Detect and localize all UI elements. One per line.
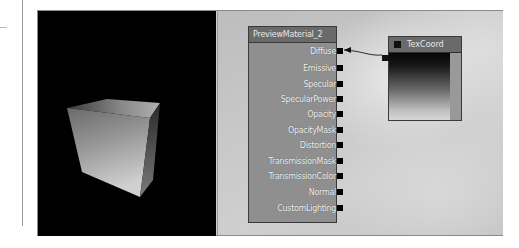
collapse-toggle-icon[interactable] [394,41,401,48]
output-connector-icon[interactable] [382,55,389,61]
connector-icon[interactable] [337,142,343,148]
vertical-divider [22,0,23,226]
connector-icon[interactable] [337,96,343,102]
connector-icon[interactable] [337,48,343,54]
connector-icon[interactable] [337,65,343,71]
material-node[interactable]: PreviewMaterial_2 Diffuse Emissive Specu… [248,26,337,223]
pin-emissive[interactable]: Emissive [303,63,343,73]
material-node-title: PreviewMaterial_2 [249,27,336,43]
cube-preview [38,11,216,236]
pin-specular-power[interactable]: SpecularPower [281,94,343,104]
preview-viewport[interactable] [38,11,216,236]
pin-transmission-mask[interactable]: TransmissionMask [269,156,344,166]
pin-distortion[interactable]: Distortion [300,140,343,150]
pin-transmission-color[interactable]: TransmissionColor [269,171,343,181]
texcoord-node-title: TexCoord [407,40,444,49]
pin-custom-lighting[interactable]: CustomLighting [277,203,343,213]
connector-icon[interactable] [337,205,343,211]
connector-icon[interactable] [337,127,343,133]
connector-icon[interactable] [337,189,343,195]
left-tick-divider [0,27,7,28]
material-graph-canvas[interactable]: PreviewMaterial_2 Diffuse Emissive Specu… [217,11,503,235]
pin-opacity-mask[interactable]: OpacityMask [288,125,343,135]
texcoord-node[interactable]: TexCoord [388,36,462,121]
connector-icon[interactable] [337,158,343,164]
pin-diffuse[interactable]: Diffuse [310,46,343,56]
pin-opacity[interactable]: Opacity [307,109,343,119]
connector-icon[interactable] [337,111,343,117]
connector-icon[interactable] [337,173,343,179]
wire-arrow-icon [344,47,351,53]
pin-normal[interactable]: Normal [309,187,343,197]
pin-specular[interactable]: Specular [303,79,343,89]
texcoord-node-side-bar [450,53,461,120]
connector-icon[interactable] [337,81,343,87]
texcoord-preview-thumbnail [389,53,450,120]
